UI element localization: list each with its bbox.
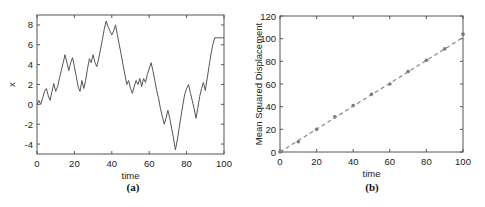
chart-a: 020406080100-4-202468timex(a)	[6, 15, 232, 194]
x-axis-label: time	[363, 168, 381, 179]
y-tick-label: 6	[28, 39, 33, 50]
x-tick-label: 0	[277, 156, 282, 167]
figure-caption: (a)	[127, 181, 140, 194]
x-tick-label: 100	[216, 158, 232, 169]
y-tick-label: 2	[28, 79, 33, 90]
y-axis-label: Mean Squared Displacement	[253, 22, 264, 145]
y-tick-label: 60	[265, 79, 276, 90]
y-tick-label: 40	[265, 101, 276, 112]
data-line	[37, 21, 224, 150]
fit-line	[280, 38, 463, 153]
y-tick-label: 4	[28, 59, 33, 70]
figure-caption: (b)	[365, 181, 379, 194]
data-point	[461, 32, 465, 36]
plot-frame	[37, 15, 224, 154]
y-tick-label: -4	[25, 139, 33, 150]
x-tick-label: 40	[107, 158, 118, 169]
y-tick-label: 120	[260, 11, 276, 22]
plot-frame	[280, 16, 463, 152]
y-tick-label: 80	[265, 56, 276, 67]
x-tick-label: 80	[421, 156, 432, 167]
y-axis-label: x	[6, 82, 17, 87]
x-tick-label: 100	[455, 156, 471, 167]
chart-b: 020406080100020406080100120timeMean Squa…	[253, 11, 471, 195]
x-tick-label: 60	[144, 158, 155, 169]
y-tick-label: 0	[28, 99, 33, 110]
x-tick-label: 40	[348, 156, 359, 167]
x-tick-label: 80	[181, 158, 192, 169]
y-tick-label: 0	[271, 147, 276, 158]
y-tick-label: 8	[28, 19, 33, 30]
y-tick-label: 20	[265, 124, 276, 135]
x-tick-label: 60	[385, 156, 396, 167]
x-tick-label: 20	[311, 156, 322, 167]
figure: 020406080100-4-202468timex(a) 0204060801…	[0, 0, 485, 207]
x-axis-label: time	[122, 170, 140, 181]
x-tick-label: 0	[34, 158, 39, 169]
y-tick-label: -2	[25, 119, 33, 130]
x-tick-label: 20	[69, 158, 80, 169]
